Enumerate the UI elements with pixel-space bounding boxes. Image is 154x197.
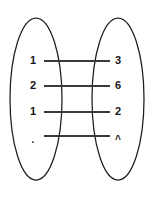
right-set-ellipse: [92, 18, 144, 180]
left-item-1: 1: [30, 54, 36, 66]
left-item-2: 2: [30, 79, 36, 91]
mapping-diagram: 1 2 1 . 3 6 2 ^: [0, 0, 154, 197]
left-item-4: .: [32, 134, 35, 145]
left-item-3: 1: [30, 105, 36, 117]
right-item-4: ^: [115, 134, 121, 145]
right-item-2: 6: [115, 79, 121, 91]
diagram-canvas: 1 2 1 . 3 6 2 ^: [0, 0, 154, 197]
right-item-3: 2: [115, 105, 121, 117]
left-set-ellipse: [10, 18, 62, 180]
right-item-1: 3: [115, 54, 121, 66]
